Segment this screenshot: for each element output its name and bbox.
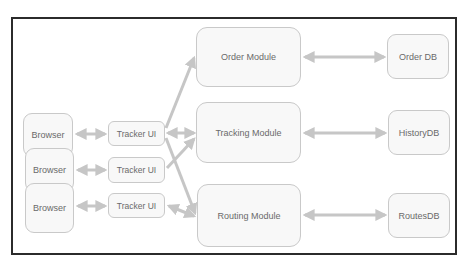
- tracker-ui-label: Tracker UI: [117, 165, 156, 175]
- browser-label: Browser: [33, 165, 66, 175]
- order-db-node: Order DB: [387, 34, 449, 79]
- history-db-node: HistoryDB: [388, 110, 450, 155]
- tracking-module-node: Tracking Module: [196, 102, 301, 163]
- browser-label: Browser: [33, 203, 66, 213]
- tracker-ui-label: Tracker UI: [117, 129, 156, 139]
- module-label: Routing Module: [217, 211, 280, 221]
- browser-node-3: Browser: [25, 183, 74, 233]
- routes-db-node: RoutesDB: [388, 193, 450, 238]
- routing-module-node: Routing Module: [197, 184, 301, 247]
- order-module-node: Order Module: [196, 27, 301, 87]
- browser-label: Browser: [31, 130, 64, 140]
- module-label: Order Module: [221, 52, 276, 62]
- database-label: RoutesDB: [398, 211, 439, 221]
- tracker-ui-label: Tracker UI: [117, 201, 156, 211]
- database-label: Order DB: [399, 52, 437, 62]
- tracker-ui-node-2: Tracker UI: [108, 157, 165, 183]
- module-label: Tracking Module: [215, 128, 281, 138]
- tracker-ui-node-1: Tracker UI: [108, 121, 165, 146]
- database-label: HistoryDB: [399, 128, 440, 138]
- tracker-ui-node-3: Tracker UI: [108, 193, 165, 218]
